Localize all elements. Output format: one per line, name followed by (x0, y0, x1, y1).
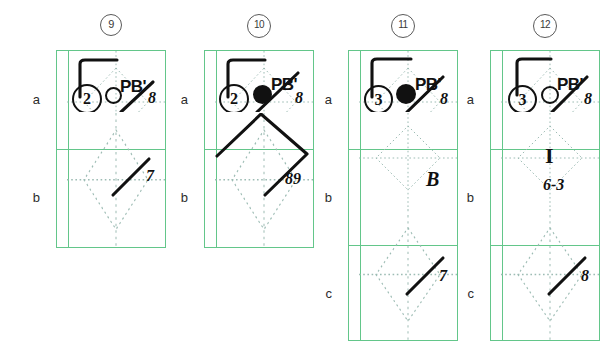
corner-number: 7 (439, 267, 447, 285)
panel-10: 10 a b PB' 8 2 (204, 14, 314, 254)
corner-slash (359, 209, 457, 299)
cell-12-a: PB' 8 3 (501, 51, 599, 112)
center-letter: I (545, 143, 554, 169)
corner-number: 8 (295, 89, 303, 107)
panel-12: 12 a b c PB' 8 (490, 14, 600, 344)
pb-label: PB' (557, 75, 583, 95)
cell-10-a: PB' 8 2 (215, 51, 313, 112)
cell-9-a: PB' 8 2 (67, 51, 165, 112)
row-label-c: c (458, 286, 474, 301)
row-label-b: b (458, 190, 474, 205)
row-label-b: b (172, 190, 188, 205)
row-label-a: a (24, 92, 40, 107)
corner-number: 8 (440, 90, 448, 108)
corner-number: 8 (148, 89, 156, 107)
diamond-guide (359, 113, 457, 208)
cell-9-b: 7 (67, 113, 165, 248)
corner-number: 7 (146, 167, 154, 185)
circled-digit: 2 (219, 84, 249, 112)
corner-number: 8 (584, 90, 592, 108)
row-label-c: c (316, 286, 332, 301)
row-label-b: b (316, 190, 332, 205)
corner-number: 8 (581, 267, 589, 285)
panel-number-badge: 9 (100, 14, 122, 36)
pb-label: PB' (271, 75, 297, 95)
filled-circle-node (253, 85, 272, 104)
panel-number-badge: 10 (247, 14, 271, 38)
cell-11-a: PB' 8 3 (359, 51, 457, 112)
cell-11-c: 7 (359, 209, 457, 340)
row-label-a: a (172, 92, 188, 107)
panel-number-badge: 11 (391, 14, 415, 38)
panel-number-badge: 12 (533, 14, 557, 38)
corner-slash (501, 209, 599, 299)
circled-digit: 3 (508, 85, 537, 112)
corner-number: 6-3 (543, 176, 564, 194)
diagram-canvas: 9 a b PB' 8 2 (0, 0, 604, 355)
pb-label: PB' (120, 77, 146, 97)
pb-label: PB' (415, 75, 441, 95)
filled-circle-node (396, 84, 416, 104)
center-letter: B (426, 168, 439, 191)
row-label-b: b (24, 190, 40, 205)
cell-12-b: I 6-3 (501, 113, 599, 208)
corner-slash (67, 113, 165, 200)
cell-11-b: B (359, 113, 457, 208)
panel-11: 11 a b c PB' 8 (348, 14, 458, 344)
cell-10-b: 89 (215, 113, 313, 248)
corner-number: 89 (285, 170, 301, 188)
circled-digit: 2 (72, 84, 102, 112)
cell-12-c: 8 (501, 209, 599, 340)
panel-9: 9 a b PB' 8 2 (56, 14, 166, 254)
row-label-a: a (316, 92, 332, 107)
circled-digit: 3 (364, 85, 393, 112)
row-label-a: a (458, 92, 474, 107)
